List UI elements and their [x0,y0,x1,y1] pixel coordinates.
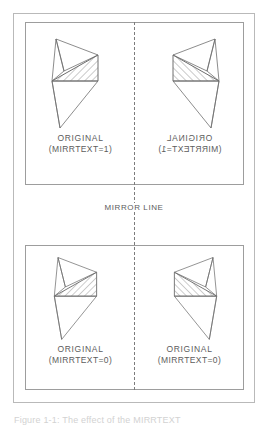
cell-bottom-right: ORIGINAL (MIRRTEXT=0) [135,252,244,366]
hatched-arrow-icon [40,33,122,133]
cell-top-right-subtitle: (MIRRTEXT=1) [158,144,221,155]
mirror-line-label-text: MIRROR LINE [103,203,164,212]
cell-top-left: ORIGINAL (MIRRTEXT=1) [26,33,135,155]
cell-top-right-title: ORIGINAL [166,133,212,144]
figure-caption: Figure 1-1: The effect of the MIRRTEXT [14,414,260,429]
cell-top-right: ORIGINAL (MIRRTEXT=1) [135,33,244,155]
arrow-shape-top-right [135,33,244,133]
cell-top-left-subtitle: (MIRRTEXT=1) [49,144,112,155]
cell-bottom-right-label: ORIGINAL (MIRRTEXT=0) [158,344,221,366]
hatched-arrow-icon [149,252,231,344]
cell-bottom-left-subtitle: (MIRRTEXT=0) [49,355,112,366]
cell-top-right-label: ORIGINAL (MIRRTEXT=1) [158,133,221,155]
cell-bottom-left-label: ORIGINAL (MIRRTEXT=0) [49,344,112,366]
hatched-arrow-icon [149,33,231,133]
mirror-line-label: MIRROR LINE [0,203,268,212]
arrow-shape-bottom-left [26,252,135,344]
arrow-shape-bottom-right [135,252,244,344]
figure-root: MIRROR LINE [0,0,268,429]
hatched-arrow-icon [40,252,122,344]
cell-top-left-title: ORIGINAL [49,133,112,144]
cell-bottom-left-title: ORIGINAL [49,344,112,355]
cell-bottom-left: ORIGINAL (MIRRTEXT=0) [26,252,135,366]
cell-top-left-label: ORIGINAL (MIRRTEXT=1) [49,133,112,155]
arrow-shape-top-left [26,33,135,133]
cell-bottom-right-subtitle: (MIRRTEXT=0) [158,355,221,366]
cell-bottom-right-title: ORIGINAL [158,344,221,355]
